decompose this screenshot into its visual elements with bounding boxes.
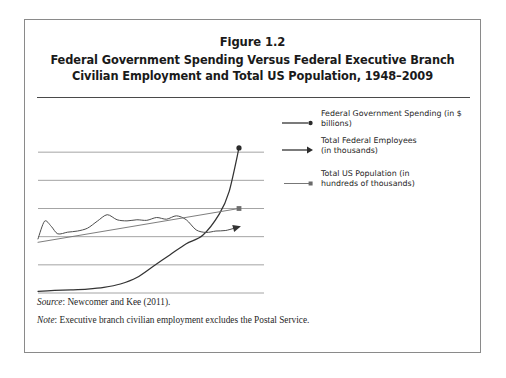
line-with-round-dot-icon <box>281 109 317 131</box>
legend-label-employees: Total Federal Employees (in thousands) <box>317 136 417 157</box>
legend-label-employees-line-1: Total Federal Employees <box>321 136 417 146</box>
line-with-square-dot-icon <box>281 169 317 191</box>
series-line-2 <box>38 209 239 243</box>
source-note-text: : Newcomer and Kee (2011). <box>62 297 170 307</box>
series-endpoint-arrowhead-icon <box>232 223 242 232</box>
figure-container: Figure 1.2 Federal Government Spending V… <box>24 19 481 353</box>
legend-item-spending: Federal Government Spending (in $ billio… <box>281 109 481 131</box>
source-note-label: Source <box>37 297 62 307</box>
legend-label-employees-line-2: (in thousands) <box>321 146 417 156</box>
legend-item-employees: Total Federal Employees (in thousands) <box>281 136 481 158</box>
figure-title-block: Figure 1.2 Federal Government Spending V… <box>25 20 480 85</box>
series-line-1 <box>38 215 239 239</box>
chart-legend: Federal Government Spending (in $ billio… <box>281 109 481 195</box>
explanatory-note-text: : Executive branch civilian employment e… <box>55 315 310 325</box>
legend-item-population: Total US Population (in hundreds of thou… <box>281 169 481 191</box>
legend-label-population-line-2: hundreds of thousands) <box>321 179 415 189</box>
figure-title-line-2: Civilian Employment and Total US Populat… <box>25 68 480 85</box>
source-note: Source: Newcomer and Kee (2011). <box>37 297 467 308</box>
line-with-arrowhead-icon <box>281 136 317 158</box>
figure-notes: Source: Newcomer and Kee (2011). Note: E… <box>37 297 467 333</box>
explanatory-note-label: Note <box>37 315 55 325</box>
figure-title-line-1: Federal Government Spending Versus Feder… <box>25 52 480 69</box>
gridlines-group <box>38 152 264 293</box>
series-endpoint-square-dot-icon <box>237 206 242 211</box>
legend-label-spending: Federal Government Spending (in $ billio… <box>317 109 481 130</box>
data-series-group <box>38 145 242 291</box>
explanatory-note: Note: Executive branch civilian employme… <box>37 315 467 326</box>
legend-label-spending-line-1: Federal Government Spending (in $ billio… <box>321 109 481 130</box>
series-endpoint-round-dot-icon <box>236 145 241 150</box>
legend-label-population: Total US Population (in hundreds of thou… <box>317 169 415 190</box>
figure-number: Figure 1.2 <box>25 34 480 51</box>
legend-label-population-line-1: Total US Population (in <box>321 169 415 179</box>
title-divider-rule <box>37 97 470 98</box>
